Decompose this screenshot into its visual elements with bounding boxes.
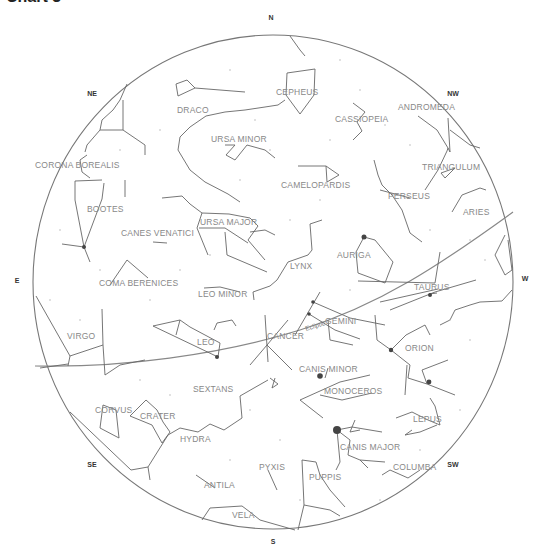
compass-label-w: W (522, 275, 529, 282)
constellation-label: CEPHEUS (276, 87, 319, 97)
constellation-labels: DRACOCEPHEUSCASSIOPEIAANDROMEDAURSA MINO… (35, 87, 490, 520)
constellation-label: LEPUS (413, 414, 442, 424)
constellation-label: PUPPIS (309, 472, 342, 482)
constellation-label: ORION (405, 343, 434, 353)
compass-label-e: E (15, 277, 20, 284)
constellation-label: ANTILA (204, 480, 235, 490)
sky-map: Ecliptic (0, 0, 542, 557)
constellation-label: MONOCEROS (324, 386, 383, 396)
constellation-label: DRACO (177, 105, 209, 115)
compass-label-sw: SW (447, 461, 459, 468)
star-sirius (333, 426, 341, 434)
constellation-label: VIRGO (67, 331, 96, 341)
constellation-label: SEXTANS (193, 384, 234, 394)
constellation-label: VELA (232, 510, 255, 520)
constellation-label: LEO (197, 337, 215, 347)
constellation-label: CANIS MINOR (299, 364, 358, 374)
compass-label-ne: NE (87, 90, 97, 97)
constellation-label: CANIS MAJOR (340, 442, 400, 452)
constellation-label: TRIANGULUM (422, 162, 480, 172)
constellation-label: COMA BERENICES (99, 278, 178, 288)
constellation-label: CORVUS (95, 405, 133, 415)
constellation-label: CAMELOPARDIS (281, 180, 350, 190)
compass-label-se: SE (87, 461, 97, 468)
constellation-label: PERSEUS (388, 191, 430, 201)
constellation-label: LYNX (290, 261, 313, 271)
constellation-label: TAURUS (414, 282, 450, 292)
constellation-label: LEO MINOR (198, 289, 248, 299)
star-castor (307, 312, 311, 316)
constellation-label: ARIES (463, 207, 490, 217)
compass-label-s: S (271, 538, 276, 545)
constellation-label: CANCER (267, 331, 304, 341)
constellation-label: URSA MINOR (211, 134, 267, 144)
constellation-label: CASSIOPEIA (335, 114, 389, 124)
star-arcturus (82, 245, 86, 249)
star-regulus (215, 355, 219, 359)
constellation-label: CRATER (140, 411, 176, 421)
star-pollux (311, 300, 315, 304)
bright-stars (82, 235, 432, 435)
star-betelgeuse (389, 348, 393, 352)
star-procyon (317, 373, 323, 379)
star-rigel (427, 380, 432, 385)
constellation-label: GEMINI (325, 316, 356, 326)
compass-label-n: N (268, 14, 273, 21)
star-capella (362, 235, 367, 240)
constellation-label: PYXIS (259, 462, 285, 472)
constellation-label: AURIGA (337, 250, 371, 260)
constellation-label: CANES VENATICI (121, 228, 194, 238)
ecliptic-label: Ecliptic (304, 319, 327, 333)
constellation-label: COLUMBA (393, 462, 437, 472)
constellation-label: CORONA BOREALIS (35, 160, 120, 170)
star-aldebaran (428, 293, 432, 297)
constellation-label: BOOTES (87, 204, 124, 214)
compass-label-nw: NW (447, 90, 459, 97)
constellation-label: HYDRA (180, 434, 211, 444)
constellation-label: URSA MAJOR (200, 217, 257, 227)
constellation-label: ANDROMEDA (398, 102, 455, 112)
